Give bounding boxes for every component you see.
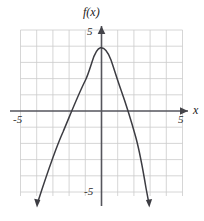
y-axis-tick-label-positive-five: 5 <box>87 26 93 37</box>
y-axis-tick-label-negative-five: -5 <box>84 186 93 197</box>
parabola-graph-figure: f(x) x 5 -5 -5 5 <box>0 0 204 221</box>
x-axis-tick-label-negative-five: -5 <box>13 114 22 125</box>
y-axis <box>98 26 106 206</box>
graph-canvas <box>0 0 204 221</box>
x-axis-label: x <box>193 104 198 116</box>
y-axis-label: f(x) <box>83 6 100 18</box>
x-axis-tick-label-positive-five: 5 <box>178 114 184 125</box>
parabola-curve <box>34 48 152 208</box>
